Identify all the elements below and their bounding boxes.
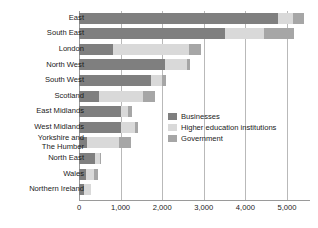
bar-segment bbox=[135, 122, 138, 133]
bar-segment bbox=[79, 75, 151, 86]
legend-swatch-businesses bbox=[168, 113, 177, 120]
bar-segment bbox=[278, 13, 293, 24]
bar-segment bbox=[165, 59, 187, 70]
bar-segment bbox=[225, 28, 265, 39]
y-axis-label: South East bbox=[0, 29, 84, 38]
gridline-4000 bbox=[245, 11, 246, 200]
x-axis-tick-label: 0 bbox=[77, 203, 81, 212]
legend-swatch-government bbox=[168, 135, 177, 142]
bar-segment bbox=[151, 75, 161, 86]
legend-item-higher-education: Higher education institutions bbox=[168, 123, 276, 133]
bar-segment bbox=[94, 169, 98, 180]
y-axis-label: South West bbox=[0, 76, 84, 85]
bar-segment bbox=[99, 91, 143, 102]
legend-label-government: Government bbox=[181, 134, 223, 143]
bar-segment bbox=[84, 184, 90, 195]
bar-segment bbox=[87, 137, 119, 148]
gridline-5000 bbox=[287, 11, 288, 200]
bar-segment bbox=[86, 169, 93, 180]
x-axis-tick-label: 4,000 bbox=[236, 203, 255, 212]
bar-segment bbox=[79, 28, 225, 39]
bar-segment bbox=[162, 75, 167, 86]
gridline-3000 bbox=[204, 11, 205, 200]
legend-label-higher-education: Higher education institutions bbox=[181, 123, 276, 132]
y-axis-label: Yorkshire and The Humber bbox=[0, 134, 84, 151]
y-axis-label: East bbox=[0, 14, 84, 23]
legend-item-government: Government bbox=[168, 134, 276, 144]
legend-label-businesses: Businesses bbox=[181, 112, 220, 121]
plot-area bbox=[79, 11, 309, 200]
bar-segment bbox=[119, 137, 131, 148]
bar-segment bbox=[79, 106, 121, 117]
y-axis-label: East Midlands bbox=[0, 107, 84, 116]
bar-segment bbox=[113, 44, 189, 55]
bar-segment bbox=[100, 153, 101, 164]
legend-swatch-higher-education bbox=[168, 124, 177, 131]
bar-segment bbox=[293, 13, 303, 24]
bar-segment bbox=[79, 59, 165, 70]
chart-legend: Businesses Higher education institutions… bbox=[168, 112, 276, 145]
y-axis-label: Northern Ireland bbox=[0, 185, 84, 194]
y-axis-label: Wales bbox=[0, 170, 84, 179]
bar-segment bbox=[143, 91, 155, 102]
x-axis-baseline bbox=[79, 200, 310, 201]
bar-segment bbox=[79, 122, 121, 133]
bar-segment bbox=[79, 44, 113, 55]
bar-segment bbox=[264, 28, 293, 39]
y-axis-label: North East bbox=[0, 154, 84, 163]
y-axis-label: North West bbox=[0, 61, 84, 70]
y-axis-label: Scotland bbox=[0, 92, 84, 101]
y-axis-label: West Midlands bbox=[0, 123, 84, 132]
legend-item-businesses: Businesses bbox=[168, 112, 276, 122]
bar-chart: EastSouth EastLondonNorth WestSouth West… bbox=[0, 0, 318, 228]
bar-segment bbox=[128, 106, 133, 117]
y-axis-label: London bbox=[0, 45, 84, 54]
x-axis-tick-label: 5,000 bbox=[277, 203, 296, 212]
bar-segment bbox=[189, 44, 201, 55]
bar-segment bbox=[187, 59, 191, 70]
x-axis-tick-label: 3,000 bbox=[194, 203, 213, 212]
x-axis-tick-label: 2,000 bbox=[153, 203, 172, 212]
x-axis-tick-label: 1,000 bbox=[111, 203, 130, 212]
bar-segment bbox=[79, 13, 278, 24]
bar-segment bbox=[121, 122, 135, 133]
gridline-2000 bbox=[162, 11, 163, 200]
bar-segment bbox=[121, 106, 128, 117]
